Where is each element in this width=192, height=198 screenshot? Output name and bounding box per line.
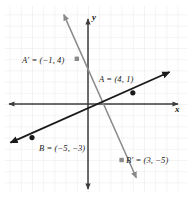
- label-point-b: B = (−5, −3): [39, 143, 85, 153]
- label-point-a-prime: A′ = (−1, 4): [22, 55, 64, 65]
- coordinate-plane-figure: A = (4, 1) A′ = (−1, 4) B = (−5, −3) B′ …: [0, 0, 192, 198]
- point-a: [130, 90, 135, 95]
- label-point-a: A = (4, 1): [99, 74, 133, 84]
- point-b-prime: [119, 158, 123, 162]
- point-b: [29, 135, 34, 140]
- y-axis-label: y: [92, 12, 96, 22]
- label-point-b-prime: B′ = (3, −5): [126, 155, 168, 165]
- x-axis-label: x: [175, 104, 180, 114]
- point-a-prime: [75, 57, 79, 61]
- graph-canvas: [0, 0, 192, 198]
